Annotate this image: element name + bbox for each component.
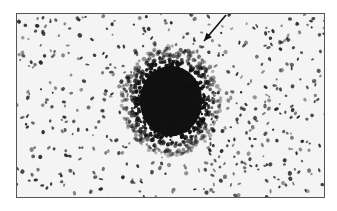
dark-cluster	[120, 44, 223, 157]
micrograph-frame	[16, 13, 325, 198]
micrograph-image	[17, 14, 325, 198]
arrow-icon	[204, 15, 226, 41]
